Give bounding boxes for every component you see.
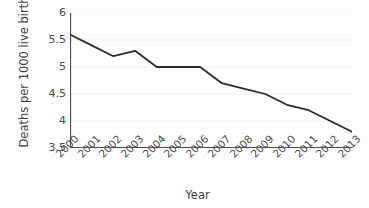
x-tick-label: 2002	[97, 133, 123, 159]
x-tick-label: 2001	[76, 133, 102, 159]
x-tick-label: 2013	[336, 133, 362, 159]
x-tick-label: 2005	[162, 133, 188, 159]
x-tick-label: 2012	[314, 133, 340, 159]
line-chart: Deaths per 1000 live births 3.544.555.56…	[0, 0, 369, 208]
x-tick-label: 2007	[206, 133, 232, 159]
x-axis-title-text: Year	[159, 188, 209, 202]
x-tick-label: 2011	[293, 133, 319, 159]
x-tick-label: 2010	[271, 133, 297, 159]
x-tick-label: 2009	[249, 133, 275, 159]
x-tick-label: 2004	[141, 133, 167, 159]
x-tick-label: 2003	[119, 133, 145, 159]
x-tick-label: 2008	[228, 133, 254, 159]
x-axis-tick-labels: 2000200120022003200420052006200720082009…	[0, 0, 369, 208]
x-axis-title: Year	[0, 188, 369, 202]
x-tick-label: 2000	[54, 133, 80, 159]
x-tick-label: 2006	[184, 133, 210, 159]
